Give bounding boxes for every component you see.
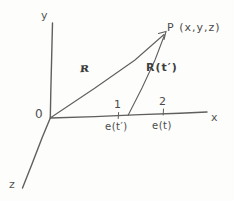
origin-label: 0 [35,108,43,120]
z-axis-label: z [9,179,15,190]
point-p-label: P (x,y,z) [167,22,221,33]
script-r-glyph: ʀ [80,61,91,75]
retarded-vector-label: R(t′) [146,62,178,73]
tick-number-2: 2 [159,96,167,107]
figure-canvas: y x z 0 P (x,y,z) ʀ R(t′) 1 e(t′) 2 e(t) [0,0,234,201]
y-axis-label: y [41,10,48,21]
source-label-retarded: e(t′) [105,122,128,132]
y-axis-line [50,23,52,118]
tick-number-1: 1 [114,99,122,110]
script-r-vector-label: ʀ [80,61,90,74]
source-label-present: e(t) [152,121,172,131]
z-axis-line [23,118,51,188]
x-axis-label: x [211,112,218,123]
